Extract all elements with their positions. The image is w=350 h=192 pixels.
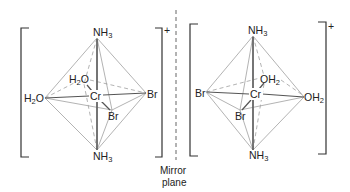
enantiomer-diagram: NH3 NH3 H2O H2O Br Br Cr + Mirror plane: [0, 0, 350, 192]
right-ligand-right: OH2: [304, 91, 324, 105]
right-metal: Cr: [250, 88, 262, 100]
left-ligand-bottom: NH3: [93, 150, 112, 164]
right-complex: NH3 NH3 Br Br OH2 OH2 Cr +: [190, 20, 334, 163]
left-ligand-top: NH3: [93, 26, 112, 40]
left-ligand-right: Br: [147, 88, 158, 100]
left-ligand-left: H2O: [24, 92, 44, 106]
left-metal: Cr: [90, 90, 102, 102]
right-charge: +: [328, 20, 334, 32]
right-ligand-front: Br: [235, 110, 246, 122]
left-complex: NH3 NH3 H2O H2O Br Br Cr +: [21, 24, 170, 164]
left-ligand-back: H2O: [69, 73, 89, 87]
mirror-label-line1: Mirror: [160, 165, 187, 176]
right-ligand-bottom: NH3: [249, 149, 268, 163]
right-ligand-top: NH3: [248, 24, 267, 38]
mirror-label-line2: plane: [162, 177, 187, 188]
left-charge: +: [164, 24, 170, 36]
left-ligand-front: Br: [108, 110, 119, 122]
right-ligand-left: Br: [195, 87, 206, 99]
right-bracket-close: [318, 22, 326, 154]
right-ligand-back: OH2: [260, 73, 280, 87]
